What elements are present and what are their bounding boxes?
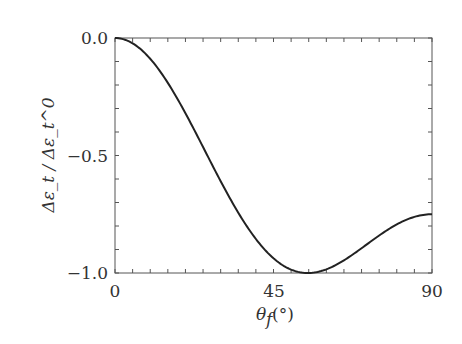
- ytick-label-minus-0.5: −0.5: [67, 146, 108, 166]
- x-axis-symbol: θ: [256, 304, 266, 324]
- xtick-label-90: 90: [421, 281, 443, 301]
- chart: 0.0 −0.5 −1.0 0 45 90 θ f (°) Δε_t / Δε_…: [0, 0, 462, 344]
- data-line: [115, 38, 432, 273]
- x-axis-label: θ f (°): [256, 304, 294, 329]
- ytick-label-0: 0.0: [81, 28, 108, 48]
- xtick-label-0: 0: [110, 281, 121, 301]
- xtick-label-45: 45: [263, 281, 285, 301]
- x-axis-unit: (°): [272, 304, 294, 324]
- ytick-label-minus-1: −1.0: [67, 263, 108, 283]
- y-axis-label: Δε_t / Δε_t^0: [38, 97, 58, 213]
